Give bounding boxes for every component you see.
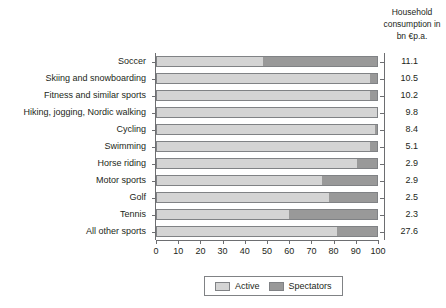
value-axis-tick-label: 10 (166, 246, 190, 256)
value-axis-tick-label: 20 (188, 246, 212, 256)
bar-row (156, 87, 378, 104)
value-label: 5.1 (386, 138, 426, 155)
bar-row (156, 121, 378, 138)
bar-segment-active (157, 108, 377, 117)
value-label: 8.4 (386, 121, 426, 138)
category-label: Motor sports (0, 172, 152, 189)
stacked-bar (156, 56, 378, 67)
category-label: Skiing and snowboarding (0, 70, 152, 87)
value-axis-tick-label: 60 (277, 246, 301, 256)
value-axis-tick (378, 240, 379, 244)
value-axis-tick-label: 30 (211, 246, 235, 256)
value-axis-tick (156, 240, 157, 244)
bar-row (156, 223, 378, 240)
bar-row (156, 172, 378, 189)
value-axis-tick (311, 240, 312, 244)
bar-segment-active (157, 227, 337, 236)
value-label: 10.5 (386, 70, 426, 87)
value-column-tick (380, 62, 384, 63)
bar-segment-spectators (370, 91, 377, 100)
stacked-bar (156, 141, 378, 152)
category-label: Hiking, jogging, Nordic walking (0, 104, 152, 121)
bar-segment-active (157, 74, 370, 83)
bar-segment-active (157, 176, 322, 185)
category-label: Swimming (0, 138, 152, 155)
legend-label-spectators: Spectators (289, 281, 332, 291)
value-axis-tick (289, 240, 290, 244)
value-axis-tick-label: 50 (255, 246, 279, 256)
bar-segment-active (157, 142, 370, 151)
value-header-line-2: consumption in (378, 18, 446, 30)
bar-row (156, 70, 378, 87)
stacked-bar-chart: Household consumption in bn €p.a. Soccer… (0, 0, 446, 308)
legend-item-spectators: Spectators (269, 281, 332, 291)
stacked-bar (156, 107, 378, 118)
value-label: 27.6 (386, 223, 426, 240)
bar-segment-active (157, 210, 289, 219)
value-header-line-1: Household (378, 6, 446, 18)
stacked-bar (156, 73, 378, 84)
bar-segment-spectators (337, 227, 377, 236)
bar-segment-spectators (322, 176, 377, 185)
value-label: 2.3 (386, 206, 426, 223)
chart-legend: Active Spectators (204, 276, 343, 296)
value-column-tick (380, 232, 384, 233)
value-column-axis-line (384, 53, 385, 240)
value-axis-tick (200, 240, 201, 244)
legend-swatch-spectators-icon (269, 282, 284, 291)
value-column-tick (380, 181, 384, 182)
value-axis-tick-label: 100 (366, 246, 390, 256)
value-axis-tick (178, 240, 179, 244)
value-column-tick (380, 96, 384, 97)
value-column-tick (380, 113, 384, 114)
value-axis-tick (267, 240, 268, 244)
stacked-bar (156, 90, 378, 101)
value-axis-tick (356, 240, 357, 244)
bar-segment-spectators (375, 125, 377, 134)
bar-segment-spectators (263, 57, 377, 66)
value-column-tick (380, 215, 384, 216)
legend-swatch-active-icon (215, 282, 230, 291)
value-column-tick (380, 147, 384, 148)
bar-segment-spectators (289, 210, 377, 219)
bar-segment-spectators (357, 159, 377, 168)
bar-segment-spectators (370, 142, 377, 151)
bar-row (156, 53, 378, 70)
stacked-bar (156, 175, 378, 186)
value-axis-tick-label: 70 (299, 246, 323, 256)
category-label: Soccer (0, 53, 152, 70)
value-label: 11.1 (386, 53, 426, 70)
value-header-line-3: bn €p.a. (378, 30, 446, 42)
legend-item-active: Active (215, 281, 260, 291)
category-label: Tennis (0, 206, 152, 223)
category-label: Cycling (0, 121, 152, 138)
bar-segment-spectators (329, 193, 377, 202)
value-column: 11.110.510.29.88.45.12.92.92.52.327.6 (386, 53, 426, 240)
bar-segment-spectators (370, 74, 377, 83)
bar-row (156, 206, 378, 223)
value-axis-tick (334, 240, 335, 244)
value-label: 9.8 (386, 104, 426, 121)
bar-row (156, 104, 378, 121)
value-column-tick (380, 130, 384, 131)
value-column-tick (380, 164, 384, 165)
value-column-tick (380, 79, 384, 80)
value-axis-tick (245, 240, 246, 244)
stacked-bar (156, 158, 378, 169)
plot-area (156, 53, 378, 240)
bar-row (156, 189, 378, 206)
value-label: 2.9 (386, 155, 426, 172)
bar-segment-active (157, 159, 357, 168)
bar-segment-active (157, 57, 263, 66)
category-label: Golf (0, 189, 152, 206)
bar-segment-active (157, 91, 370, 100)
value-axis-tick-label: 40 (233, 246, 257, 256)
value-label: 2.9 (386, 172, 426, 189)
value-axis-tick-label: 0 (144, 246, 168, 256)
value-column-tick (380, 198, 384, 199)
stacked-bar (156, 192, 378, 203)
stacked-bar (156, 124, 378, 135)
value-axis-tick-label: 90 (344, 246, 368, 256)
value-label: 10.2 (386, 87, 426, 104)
bar-row (156, 155, 378, 172)
